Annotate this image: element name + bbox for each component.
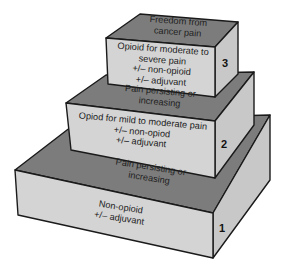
step-3-number: 3 <box>222 57 228 69</box>
step-1-number: 1 <box>219 222 225 234</box>
step-2-number: 2 <box>221 138 227 150</box>
